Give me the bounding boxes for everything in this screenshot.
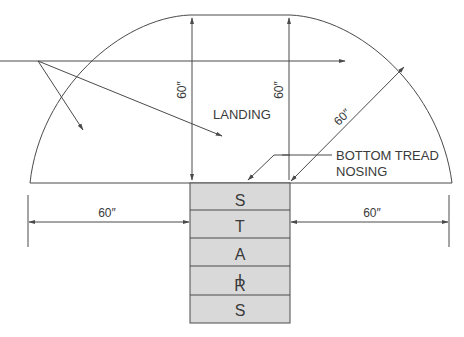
stairs-letter: A bbox=[235, 246, 246, 263]
stairs-letter: T bbox=[235, 218, 245, 235]
callout-label-line2: NOSING bbox=[336, 164, 387, 179]
pointer-arrow bbox=[38, 61, 222, 136]
stairs-letter: S bbox=[235, 302, 246, 319]
stairs-letter: R bbox=[234, 277, 246, 294]
stairs-letter: S bbox=[235, 192, 246, 209]
stair-landing-diagram: S T A I R R S 60″ 60″ LANDING 60″ BOTTOM… bbox=[0, 0, 464, 337]
callout-label-line1: BOTTOM TREAD bbox=[336, 148, 439, 163]
diagonal-dim-label: 60″ bbox=[331, 105, 354, 128]
right-horizontal-dim-label: 60″ bbox=[363, 206, 381, 220]
left-vertical-dim-label: 60″ bbox=[175, 80, 189, 98]
right-vertical-dim-label: 60″ bbox=[272, 80, 286, 98]
callout-leader bbox=[248, 155, 332, 180]
landing-label: LANDING bbox=[213, 107, 271, 122]
left-horizontal-dim-label: 60″ bbox=[98, 206, 116, 220]
pointer-arrow bbox=[38, 61, 83, 130]
